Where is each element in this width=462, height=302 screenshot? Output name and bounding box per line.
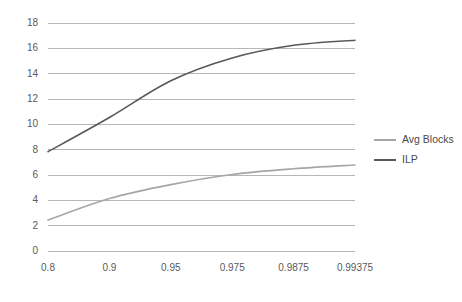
y-axis-tick-label: 18 (27, 17, 39, 28)
y-axis-tick-label: 2 (32, 220, 38, 231)
y-axis-tick-label: 10 (27, 118, 39, 129)
x-axis-tick-label: 0.99375 (337, 262, 374, 273)
y-axis-tick-label: 14 (27, 68, 39, 79)
y-axis-tick-label: 0 (32, 245, 38, 256)
x-axis-tick-label: 0.9 (102, 262, 116, 273)
chart-background (0, 0, 462, 302)
y-axis-tick-label: 8 (32, 144, 38, 155)
x-axis-tick-label: 0.9875 (278, 262, 309, 273)
y-axis-tick-label: 4 (32, 194, 38, 205)
x-axis-tick-label: 0.8 (41, 262, 55, 273)
y-axis-tick-label: 6 (32, 169, 38, 180)
x-axis-tick-label: 0.975 (220, 262, 245, 273)
legend-label: Avg Blocks (402, 133, 454, 145)
y-axis-tick-label: 16 (27, 42, 39, 53)
x-axis-tick-label: 0.95 (161, 262, 181, 273)
chart-canvas: 181614121086420 0.80.90.950.9750.98750.9… (0, 0, 462, 302)
legend-label: ILP (402, 153, 418, 165)
line-chart: 181614121086420 0.80.90.950.9750.98750.9… (0, 0, 462, 302)
y-axis-tick-label: 12 (27, 93, 39, 104)
